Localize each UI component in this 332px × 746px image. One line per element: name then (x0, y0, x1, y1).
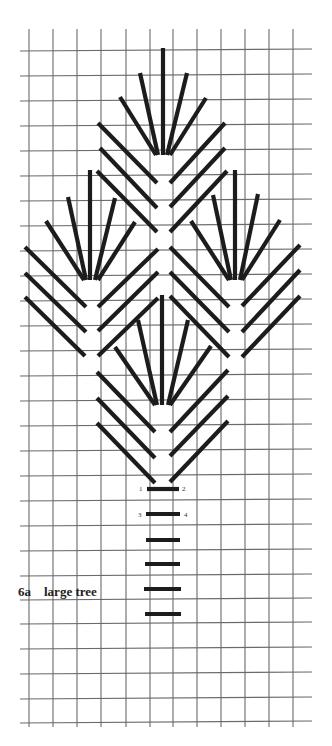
stitch-chart: 1234 (0, 0, 332, 746)
branch-stitch (170, 247, 229, 307)
grid-row-line (20, 199, 312, 201)
grid-row-line (20, 224, 312, 226)
grid-row-line (20, 99, 312, 101)
figure-title: large tree (44, 584, 97, 599)
grid-row-line (20, 74, 312, 76)
branch-stitch (242, 296, 300, 357)
branch-stitch (170, 296, 229, 357)
stitch-number-1: 1 (139, 485, 143, 493)
grid-row-line (20, 449, 312, 451)
branch-stitch (170, 370, 228, 432)
grid-row-line (20, 622, 312, 624)
grid-row-line (20, 374, 312, 376)
grid-row-line (20, 549, 312, 551)
branch-stitch (242, 245, 300, 306)
grid-row-line (20, 174, 312, 176)
grid-row-line (20, 574, 312, 576)
grid-row-line (20, 524, 312, 526)
branch-stitch (170, 272, 229, 332)
grid-row-line (20, 124, 312, 126)
branch-stitch (98, 298, 158, 356)
grid-row-line (20, 299, 312, 301)
grid-row-line (20, 399, 312, 401)
grid-row-line (20, 324, 312, 326)
stitch-number-2: 2 (182, 485, 186, 493)
stitch-number-4: 4 (184, 511, 188, 519)
branch-stitch (25, 297, 85, 356)
stitch-number-3: 3 (138, 511, 142, 519)
figure-id: 6a (18, 584, 31, 599)
grid-row-line (20, 49, 312, 51)
grid-row-line (20, 474, 312, 476)
grid-row-line (20, 499, 312, 501)
grid-row-line (20, 721, 312, 723)
grid-row-line (20, 647, 312, 649)
branch-stitch (170, 396, 228, 456)
grid-row-line (20, 424, 312, 426)
grid-row-line (20, 672, 312, 674)
grid-row-line (20, 349, 312, 351)
grid-row-line (20, 697, 312, 699)
branch-stitch (170, 421, 228, 482)
graph-paper-grid (20, 29, 312, 727)
top-fan (120, 48, 206, 155)
figure-caption: 6alarge tree (18, 584, 97, 600)
branch-stitch (242, 270, 300, 332)
